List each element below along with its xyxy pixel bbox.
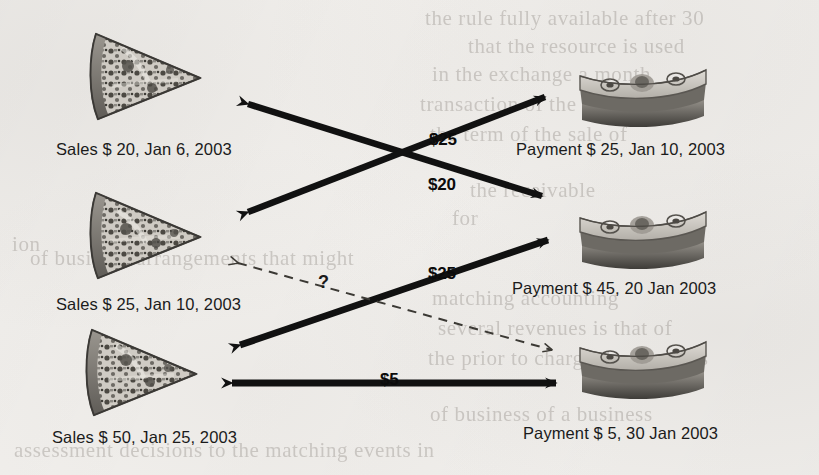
link-25-top	[243, 88, 550, 196]
arrow-layer	[0, 0, 819, 475]
link-25-middle	[240, 240, 548, 345]
sales-payment-matching-diagram: the rule fully available after 30 that t…	[0, 0, 819, 475]
link-amount-label: $20	[428, 175, 456, 195]
link-unknown	[238, 263, 552, 350]
link-amount-label: $25	[428, 264, 456, 284]
link-amount-label: $25	[429, 130, 457, 150]
link-amount-label: $5	[380, 370, 399, 390]
link-20	[248, 97, 545, 212]
link-unknown-label: ?	[318, 272, 329, 293]
